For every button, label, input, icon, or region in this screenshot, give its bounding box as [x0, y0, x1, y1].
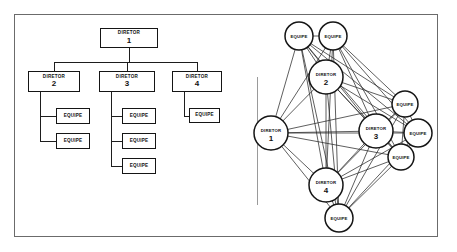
figure-canvas: DIRETOR1DIRETOR2DIRETOR3DIRETOR4EQUIPEEQ… [0, 0, 457, 252]
network-node-circle [309, 60, 343, 94]
network-node-diretor-1: DIRETOR1 [254, 116, 288, 150]
org-connector-line [111, 166, 122, 167]
org-node-role-label: EQUIPE [64, 139, 83, 144]
org-node-equipe: EQUIPE [122, 133, 156, 149]
network-node-number-label: 4 [324, 186, 329, 195]
network-edge [299, 36, 326, 185]
network-node-role-label: EQUIPE [324, 34, 341, 39]
network-graph-svg: EQUIPEEQUIPEDIRETOR2DIRETOR1DIRETOR3DIRE… [242, 0, 457, 252]
org-node-number-label: 3 [125, 80, 129, 88]
org-node-number-label: 1 [127, 37, 131, 45]
org-connector-line [40, 141, 56, 142]
network-node-role-label: EQUIPE [290, 34, 307, 39]
org-node-equipe: EQUIPE [56, 133, 90, 149]
org-connector-line [54, 62, 55, 71]
network-node-role-label: EQUIPE [396, 102, 413, 107]
network-node-equipe: EQUIPE [388, 144, 414, 170]
network-node-diretor-3: DIRETOR3 [359, 114, 393, 148]
network-node-role-label: EQUIPE [330, 216, 347, 221]
org-node-equipe: EQUIPE [189, 108, 220, 123]
org-node-diretor-4: DIRETOR4 [172, 71, 222, 92]
org-node-number-label: 4 [195, 80, 199, 88]
network-node-equipe: EQUIPE [404, 119, 432, 147]
network-node-equipe: EQUIPE [392, 91, 418, 117]
network-node-role-label: EQUIPE [392, 155, 409, 160]
org-node-diretor-1: DIRETOR1 [100, 28, 158, 48]
org-connector-line [111, 141, 122, 142]
network-node-equipe: EQUIPE [319, 22, 347, 50]
network-node-role-label: EQUIPE [409, 131, 426, 136]
org-node-role-label: EQUIPE [64, 114, 83, 119]
network-node-number-label: 3 [374, 132, 379, 141]
org-node-role-label: EQUIPE [195, 113, 214, 118]
org-node-role-label: EQUIPE [130, 164, 149, 169]
org-connector-line [197, 62, 198, 71]
org-connector-line [129, 48, 130, 62]
org-node-number-label: 2 [52, 80, 56, 88]
network-edge [333, 36, 405, 104]
network-node-number-label: 2 [324, 78, 329, 87]
network-node-circle [254, 116, 288, 150]
network-node-circle [309, 168, 343, 202]
network-node-equipe: EQUIPE [285, 22, 313, 50]
org-node-equipe: EQUIPE [122, 108, 156, 124]
network-node-diretor-4: DIRETOR4 [309, 168, 343, 202]
org-node-diretor-3: DIRETOR3 [99, 71, 155, 92]
network-node-role-label: DIRETOR [366, 126, 387, 131]
org-connector-line [127, 62, 128, 71]
network-node-diretor-2: DIRETOR2 [309, 60, 343, 94]
network-node-role-label: DIRETOR [261, 128, 282, 133]
org-node-role-label: EQUIPE [130, 139, 149, 144]
org-node-equipe: EQUIPE [122, 158, 156, 174]
network-node-circle [359, 114, 393, 148]
org-node-role-label: EQUIPE [130, 114, 149, 119]
network-edges [271, 36, 418, 218]
org-connector-line [184, 92, 185, 116]
org-node-equipe: EQUIPE [56, 108, 90, 124]
org-chart-panel: DIRETOR1DIRETOR2DIRETOR3DIRETOR4EQUIPEEQ… [0, 0, 242, 252]
network-node-role-label: DIRETOR [316, 72, 337, 77]
network-node-number-label: 1 [269, 134, 274, 143]
network-graph-panel: EQUIPEEQUIPEDIRETOR2DIRETOR1DIRETOR3DIRE… [242, 0, 457, 252]
org-connector-line [111, 92, 112, 166]
network-node-equipe: EQUIPE [325, 204, 353, 232]
org-connector-line [111, 116, 122, 117]
org-connector-line [54, 62, 197, 63]
org-node-diretor-2: DIRETOR2 [28, 71, 80, 92]
network-node-role-label: DIRETOR [316, 180, 337, 185]
org-connector-line [40, 116, 56, 117]
